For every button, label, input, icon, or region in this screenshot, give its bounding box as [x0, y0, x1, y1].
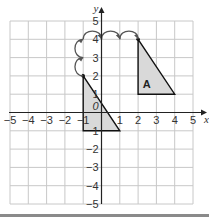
translation-arrow-step: [75, 58, 83, 76]
y-tick-label: 4: [92, 33, 98, 45]
x-tick-label: −3: [40, 114, 53, 126]
y-tick-label: 5: [92, 15, 98, 27]
y-tick-label: −5: [86, 198, 99, 210]
translation-arrows: [75, 31, 138, 76]
y-tick-label: 1: [92, 125, 98, 137]
translation-arrow-step: [75, 39, 83, 57]
tick-labels: −5−4−3−2−112345123451−2−3−4−50xy: [4, 2, 209, 210]
y-tick-label: 2: [92, 70, 98, 82]
y-axis-arrow-icon: [99, 7, 105, 13]
x-tick-label: 4: [172, 114, 178, 126]
axes: [9, 7, 207, 204]
x-tick-label: 2: [135, 114, 141, 126]
origin-label: 0: [93, 100, 100, 112]
x-tick-label: 3: [153, 114, 159, 126]
x-tick-label: −2: [59, 114, 72, 126]
x-tick-label: −4: [22, 114, 35, 126]
x-tick-label: 1: [117, 114, 123, 126]
coordinate-grid-diagram: A −5−4−3−2−112345123451−2−3−4−50xy: [0, 0, 209, 218]
y-tick-label: −2: [86, 143, 99, 155]
x-tick-label: −5: [4, 114, 17, 126]
x-axis-label: x: [203, 113, 209, 125]
y-tick-label: −4: [86, 180, 99, 192]
y-axis-label: y: [93, 2, 99, 14]
y-tick-label: 3: [92, 52, 98, 64]
x-tick-label: 5: [190, 114, 196, 126]
shape-label-A: A: [143, 78, 151, 90]
y-tick-label: −3: [86, 161, 99, 173]
bottom-divider: [0, 214, 209, 217]
y-tick-label: 1: [92, 88, 98, 100]
x-tick-label: −1: [77, 114, 90, 126]
